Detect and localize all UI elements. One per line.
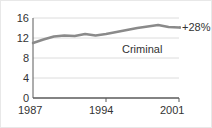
percent-change-annotation: +28%: [182, 22, 210, 33]
y-tick-label: 16: [3, 13, 29, 24]
x-tick-label: 1994: [89, 105, 113, 116]
y-tick-label: 8: [3, 53, 29, 64]
y-tick-label: 4: [3, 73, 29, 84]
line-chart-figure: 16 12 8 4 0 1987 1994 2001 +28% Criminal: [0, 0, 212, 128]
series-inline-label: Criminal: [122, 44, 162, 55]
y-tick-label: 12: [3, 33, 29, 44]
x-tick-label: 2001: [160, 105, 184, 116]
x-tick-label: 1987: [18, 105, 42, 116]
y-tick-label: 0: [3, 93, 29, 104]
series-line-criminal: [33, 25, 179, 43]
